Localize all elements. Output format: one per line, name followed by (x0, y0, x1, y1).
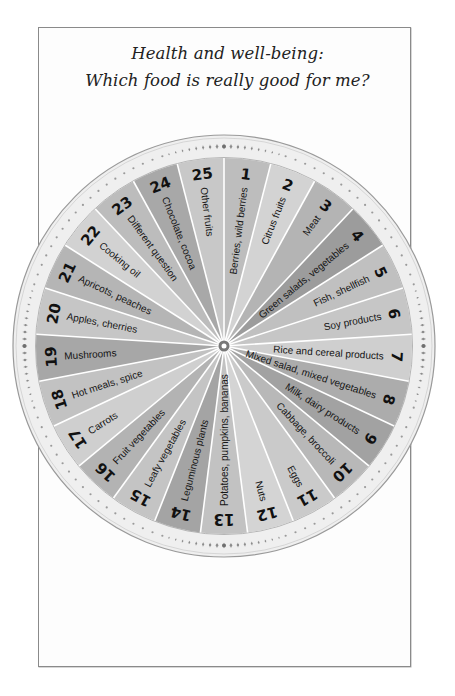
ring-dot (313, 523, 315, 525)
ring-dot (356, 197, 358, 199)
ring-dot (41, 426, 43, 428)
segment-label: Potatoes, pumpkins, bananas (219, 374, 230, 506)
ring-dot (413, 407, 415, 409)
ring-dot (384, 462, 386, 464)
segment-number: 13 (214, 510, 235, 528)
ring-dot (378, 219, 380, 221)
ring-dot (123, 172, 125, 174)
ring-dot (33, 407, 35, 409)
ring-dot (50, 245, 52, 247)
food-wheel: 1Berries, wild berries2Citrus fruits3Mea… (0, 0, 455, 696)
ring-dot (161, 155, 163, 157)
ring-dot (82, 204, 84, 206)
ring-dot (37, 273, 39, 275)
ring-dot (348, 190, 350, 192)
ring-dot (409, 416, 411, 418)
segment-number: 7 (387, 351, 406, 363)
ring-dot (285, 155, 287, 157)
ring-dot (50, 445, 52, 447)
segment-number: 19 (42, 346, 61, 368)
ring-dot (332, 178, 334, 180)
ring-dot (323, 518, 325, 520)
ring-dot (384, 228, 386, 230)
ring-dot (294, 159, 296, 161)
ring-dot (413, 283, 415, 285)
ring-dot (304, 527, 306, 529)
ring-dot (142, 163, 144, 165)
ring-dot (37, 416, 39, 418)
ring-dot (106, 506, 108, 508)
ring-dot (142, 527, 144, 529)
ring-dot (405, 264, 407, 266)
ring-dot (401, 435, 403, 437)
ring-dot (68, 470, 70, 472)
ring-dot (62, 462, 64, 464)
ring-dot (97, 500, 99, 502)
ring-dot (378, 470, 380, 472)
segment-number: 20 (43, 302, 65, 326)
ring-dot (123, 518, 125, 520)
ring-dot (89, 197, 91, 199)
ring-dot (45, 254, 47, 256)
ring-dot (371, 211, 373, 213)
ring-dot (364, 204, 366, 206)
ring-dot (304, 163, 306, 165)
ring-dot (75, 478, 77, 480)
ring-dot (56, 236, 58, 238)
ring-dot (89, 493, 91, 495)
ring-dot (132, 167, 134, 169)
ring-dot (62, 228, 64, 230)
ring-dot (364, 486, 366, 488)
ring-dot (340, 184, 342, 186)
ring-dot (401, 254, 403, 256)
ring-dot (56, 454, 58, 456)
ring-dot (75, 211, 77, 213)
ring-dot (323, 172, 325, 174)
ring-dot (132, 523, 134, 525)
ring-dot (371, 478, 373, 480)
ring-dot (390, 236, 392, 238)
ring-dot (405, 426, 407, 428)
ring-dot (396, 445, 398, 447)
wheel-hub (219, 341, 230, 352)
ring-dot (332, 512, 334, 514)
ring-dot (390, 454, 392, 456)
ring-dot (97, 190, 99, 192)
segment-number: 25 (191, 164, 214, 184)
ring-dot (340, 506, 342, 508)
ring-dot (41, 264, 43, 266)
ring-dot (294, 531, 296, 533)
ring-dot (285, 535, 287, 537)
ring-dot (151, 159, 153, 161)
ring-dot (348, 500, 350, 502)
ring-dot (68, 219, 70, 221)
ring-dot (396, 245, 398, 247)
ring-dot (82, 486, 84, 488)
ring-dot (356, 493, 358, 495)
ring-dot (45, 435, 47, 437)
ring-dot (161, 535, 163, 537)
ring-dot (313, 167, 315, 169)
ring-dot (114, 512, 116, 514)
ring-dot (114, 178, 116, 180)
ring-dot (106, 184, 108, 186)
ring-dot (33, 283, 35, 285)
ring-dot (151, 531, 153, 533)
ring-dot (409, 273, 411, 275)
